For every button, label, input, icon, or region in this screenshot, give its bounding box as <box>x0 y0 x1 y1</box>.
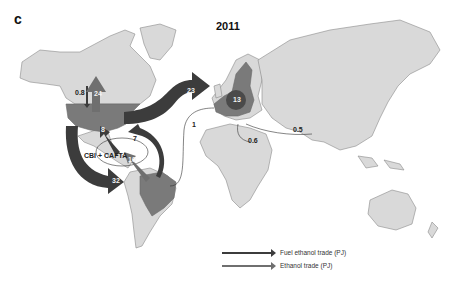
australia <box>368 190 416 230</box>
se-asia-islands <box>358 156 404 170</box>
flow-label-brazil-to-eu: 1 <box>192 121 196 128</box>
flow-label-egypt-to-eu: 0.6 <box>248 137 258 144</box>
legend-fuel-ethanol: Fuel ethanol trade (PJ) <box>222 249 346 256</box>
greenland <box>140 24 176 60</box>
flow-label-canada-to-us: 0.8 <box>75 89 85 96</box>
map-title: 2011 <box>216 20 240 32</box>
new-zealand <box>428 222 438 238</box>
flow-label-brazil-to-cbi: 10 <box>128 156 136 163</box>
region-annotation-cbi-cafta: CBI + CAFTA <box>84 152 127 159</box>
legend-arrow-icon-dark <box>222 252 272 254</box>
legend-label-ethanol: Ethanol trade (PJ) <box>280 262 332 269</box>
flow-label-pakistan-to-eu: 0.5 <box>293 126 303 133</box>
panel-label: c <box>14 11 22 27</box>
asia <box>258 20 440 150</box>
flow-label-us-to-brazil: 32 <box>112 177 120 184</box>
flow-label-intra-eu: 13 <box>233 96 241 103</box>
africa <box>200 124 272 208</box>
flow-label-us-to-eu: 23 <box>187 87 195 94</box>
flow-label-brazil-to-us: 7 <box>133 135 137 142</box>
legend-label-fuel-ethanol: Fuel ethanol trade (PJ) <box>280 249 346 256</box>
legend-arrow-icon-grey <box>222 265 272 267</box>
legend-ethanol: Ethanol trade (PJ) <box>222 262 332 269</box>
flow-label-cbi-to-us: 8 <box>101 126 105 133</box>
flow-label-us-to-canada: 24 <box>94 90 102 97</box>
land-masses <box>20 20 440 248</box>
world-map <box>0 0 461 283</box>
